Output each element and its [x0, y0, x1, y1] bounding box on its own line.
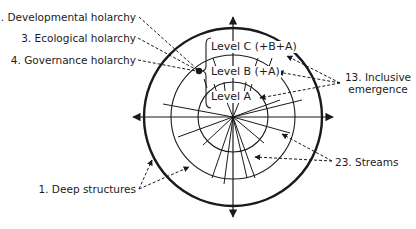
label-deep-structures: 1. Deep structures [39, 183, 136, 195]
holarchy-diagram: 2. Developmental holarchy 3. Ecological … [0, 0, 416, 229]
level-b-label: Level B (+A) [210, 66, 281, 78]
label-inclusive-emergence: 13. Inclusive emergence [343, 71, 413, 95]
label-developmental-holarchy: 2. Developmental holarchy [0, 11, 136, 23]
label-inclusive-emergence-line2: emergence [343, 83, 413, 95]
holarchy-leaders [138, 17, 197, 71]
label-inclusive-emergence-line1: 13. Inclusive [343, 71, 413, 83]
label-governance-holarchy: 4. Governance holarchy [11, 54, 136, 66]
level-a-label: Level A [210, 91, 252, 103]
label-streams: 23. Streams [335, 156, 399, 168]
label-ecological-holarchy: 3. Ecological holarchy [21, 32, 136, 44]
level-c-label: Level C (+B+A) [210, 41, 298, 53]
